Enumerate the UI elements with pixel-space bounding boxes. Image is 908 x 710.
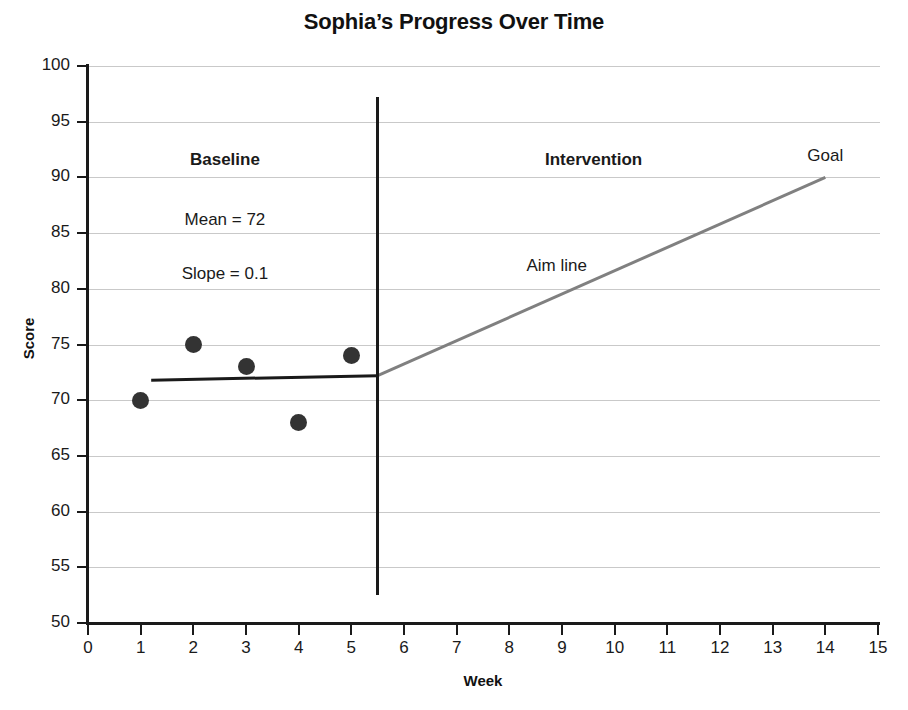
x-tick-mark [824,624,826,635]
x-tick-mark [561,624,563,635]
gridline [88,400,880,401]
x-axis-title: Week [88,672,878,689]
goal-label: Goal [807,146,843,166]
y-tick-label: 80 [22,278,70,298]
x-tick-label: 4 [279,638,319,658]
x-tick-mark [245,624,247,635]
x-tick-label: 1 [121,638,161,658]
x-tick-label: 3 [226,638,266,658]
gridline [88,177,880,178]
gridline [88,289,880,290]
baseline-trend-line [151,376,377,380]
x-tick-mark [192,624,194,635]
data-point [132,392,149,409]
baseline-slope: Slope = 0.1 [182,264,269,284]
data-point [290,414,307,431]
x-tick-label: 2 [173,638,213,658]
data-point [185,336,202,353]
x-tick-label: 5 [331,638,371,658]
baseline-label: Baseline [190,150,260,170]
x-tick-label: 7 [437,638,477,658]
x-tick-label: 14 [805,638,845,658]
gridline [88,66,880,67]
y-tick-label: 65 [22,445,70,465]
x-tick-label: 0 [68,638,108,658]
x-tick-mark [719,624,721,635]
gridline [88,233,880,234]
gridline [88,567,880,568]
phase-change-line [376,97,379,595]
aim-line [378,177,826,375]
y-tick-label: 75 [22,334,70,354]
y-axis-line [86,64,89,625]
x-tick-mark [456,624,458,635]
gridline [88,122,880,123]
x-tick-mark [508,624,510,635]
y-tick-label: 100 [22,55,70,75]
intervention-label: Intervention [545,150,642,170]
baseline-mean: Mean = 72 [185,210,266,230]
x-tick-label: 9 [542,638,582,658]
data-point [343,347,360,364]
x-tick-label: 6 [384,638,424,658]
x-tick-mark [614,624,616,635]
x-axis-line [86,622,880,625]
x-tick-mark [140,624,142,635]
x-tick-label: 11 [647,638,687,658]
x-tick-mark [877,624,879,635]
chart-title: Sophia’s Progress Over Time [0,9,908,35]
x-tick-mark [403,624,405,635]
x-tick-mark [666,624,668,635]
x-tick-mark [298,624,300,635]
x-tick-mark [772,624,774,635]
y-tick-label: 50 [22,612,70,632]
gridline [88,456,880,457]
gridline [88,512,880,513]
progress-monitoring-chart: Sophia’s Progress Over Time Score Week 5… [0,0,908,710]
x-tick-label: 15 [858,638,898,658]
y-tick-label: 95 [22,111,70,131]
y-tick-label: 70 [22,389,70,409]
x-tick-mark [87,624,89,635]
x-tick-label: 10 [595,638,635,658]
line-layer [0,0,908,710]
y-tick-label: 85 [22,222,70,242]
x-tick-label: 13 [753,638,793,658]
data-point [238,358,255,375]
y-tick-label: 60 [22,501,70,521]
aim-line-label: Aim line [526,256,586,276]
x-tick-label: 12 [700,638,740,658]
y-tick-label: 55 [22,556,70,576]
x-tick-mark [350,624,352,635]
y-tick-label: 90 [22,166,70,186]
x-tick-label: 8 [489,638,529,658]
gridline [88,345,880,346]
